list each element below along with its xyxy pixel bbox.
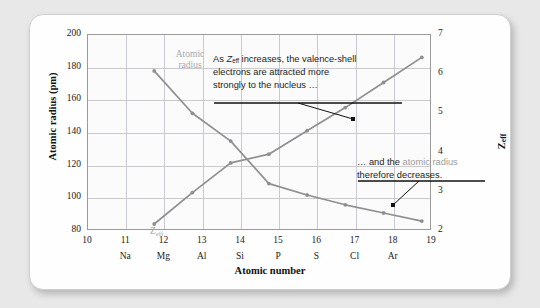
x-axis-tick-label: 16 <box>299 235 333 245</box>
annotation-radius-decreases-line2: therefore decreases. <box>357 169 458 182</box>
x-axis-tick-label: 19 <box>414 235 448 245</box>
y-axis-left-title: Atomic radius (pm) <box>47 62 58 172</box>
annotation-zeff-increases-line3: strongly to the nucleus … <box>213 79 356 92</box>
y-axis-right-tick-label: 6 <box>438 67 464 77</box>
annotation2-line1-highlight: atomic radius <box>402 157 457 167</box>
gridline-vertical <box>126 35 127 229</box>
annotation-radius-decreases: … and the atomic radius therefore decrea… <box>357 156 458 182</box>
series-label-atomic-radius: Atomic radius <box>160 49 220 71</box>
x-axis-element-symbol: Na <box>108 251 142 261</box>
y-axis-right-tick-label: 5 <box>438 106 464 116</box>
gridline-vertical <box>394 35 395 229</box>
x-axis-element-symbol: Al <box>185 251 219 261</box>
annotation-radius-decreases-line1: … and the atomic radius <box>357 156 458 169</box>
annotation-line1-pre: As <box>213 54 226 64</box>
gridline-horizontal <box>88 133 430 134</box>
annotation-line1-post: increases, the valence-shell <box>239 54 356 64</box>
x-axis-element-symbol: Cl <box>338 251 372 261</box>
annotation-line1-sub: eff <box>232 57 239 64</box>
y-axis-right-title-var: Z <box>496 142 507 149</box>
x-axis-tick-label: 13 <box>185 235 219 245</box>
y-axis-left-tick-label: 200 <box>51 28 81 38</box>
x-axis-title: Atomic number <box>170 265 370 276</box>
series-label-zeff-sub: eff <box>156 230 163 237</box>
y-axis-right-title: Zeff <box>496 121 509 161</box>
series-label-atomic-radius-line2: radius <box>160 60 220 71</box>
x-axis-element-symbol: Si <box>223 251 257 261</box>
x-axis-element-symbol: Mg <box>146 251 180 261</box>
annotation-zeff-increases: As Zeff increases, the valence-shell ele… <box>213 53 356 93</box>
gridline-horizontal <box>88 100 430 101</box>
y-axis-right-tick-label: 3 <box>438 185 464 195</box>
annotation-zeff-increases-line1: As Zeff increases, the valence-shell <box>213 53 356 66</box>
annotation2-line1-pre: … and the <box>357 157 402 167</box>
y-axis-left-tick-label: 100 <box>51 191 81 201</box>
y-axis-left-tick-label: 80 <box>51 224 81 234</box>
x-axis-tick-label: 18 <box>376 235 410 245</box>
x-axis-tick-label: 15 <box>261 235 295 245</box>
x-axis-tick-label: 14 <box>223 235 257 245</box>
x-axis-tick-label: 10 <box>70 235 104 245</box>
y-axis-right-tick-label: 7 <box>438 28 464 38</box>
y-axis-right-tick-label: 2 <box>438 224 464 234</box>
x-axis-element-symbol: P <box>261 251 295 261</box>
y-axis-right-title-sub: eff <box>499 134 508 142</box>
series-label-atomic-radius-line1: Atomic <box>160 49 220 60</box>
x-axis-element-symbol: S <box>299 251 333 261</box>
series-label-zeff: Zeff <box>150 226 180 238</box>
x-axis-tick-label: 11 <box>108 235 142 245</box>
annotation-zeff-increases-line2: electrons are attracted more <box>213 66 356 79</box>
x-axis-tick-label: 17 <box>338 235 372 245</box>
y-axis-right-tick-label: 4 <box>438 146 464 156</box>
gridline-horizontal <box>88 198 430 199</box>
figure-card: 20018016014012010080 765432 101112131415… <box>29 14 511 290</box>
x-axis-element-symbol: Ar <box>376 251 410 261</box>
